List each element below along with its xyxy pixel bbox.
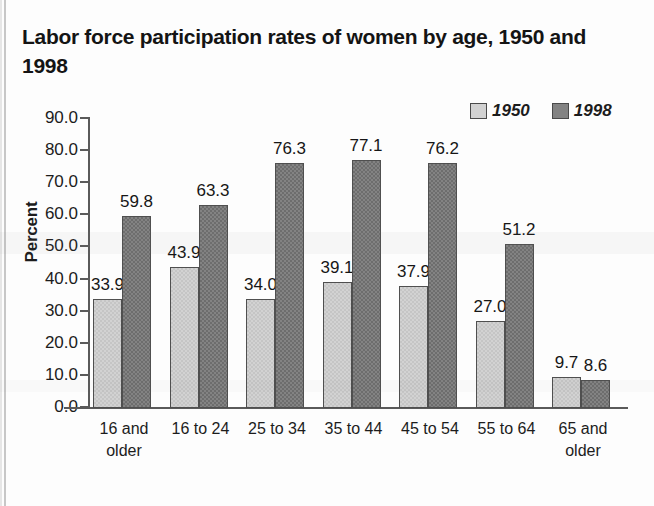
y-axis-tick-labels: 90.080.070.060.050.040.030.020.010.00.0: [16, 0, 78, 506]
bar-1998-5: [505, 244, 534, 408]
bar-value-label: 59.8: [114, 192, 160, 212]
plot-area: 33.959.843.963.334.076.339.177.137.976.2…: [88, 118, 628, 408]
x-category-label: 16 and older: [81, 418, 167, 462]
x-category-label: 45 to 54: [387, 418, 473, 440]
page-scan-edge-outer: [0, 0, 2, 506]
bar-1950-4: [399, 286, 428, 408]
y-tick-label: 50.0: [20, 236, 78, 256]
y-tick-label: 60.0: [20, 204, 78, 224]
x-category-label: 65 and older: [540, 418, 626, 462]
bar-value-label: 77.1: [343, 136, 389, 156]
bar-1950-0: [93, 299, 122, 408]
bar-value-label: 76.2: [420, 139, 466, 159]
bar-1998-0: [122, 216, 151, 408]
x-category-label: 25 to 34: [234, 418, 320, 440]
y-tick-label: 20.0: [20, 333, 78, 353]
x-category-label: 16 to 24: [158, 418, 244, 440]
x-category-label: 35 to 44: [311, 418, 397, 440]
page-scan-edge: [4, 0, 6, 506]
legend-swatch-1998: [552, 103, 569, 119]
page-title: Labor force participation rates of women…: [22, 22, 622, 80]
y-tick-label: 70.0: [20, 172, 78, 192]
bar-1950-1: [170, 267, 199, 408]
y-tick-label: 30.0: [20, 301, 78, 321]
bar-1950-2: [246, 299, 275, 408]
bar-value-label: 8.6: [573, 356, 619, 376]
bar-1950-5: [476, 321, 505, 408]
bar-value-label: 51.2: [496, 220, 542, 240]
bar-1950-3: [323, 282, 352, 408]
y-tick-label: 90.0: [20, 108, 78, 128]
y-tick-label: 40.0: [20, 269, 78, 289]
bar-1998-4: [428, 163, 457, 408]
y-tick-label: 10.0: [20, 365, 78, 385]
bar-value-label: 63.3: [190, 181, 236, 201]
bar-1998-2: [275, 163, 304, 408]
chart-page: Labor force participation rates of women…: [0, 0, 654, 506]
bar-value-label: 76.3: [267, 139, 313, 159]
bar-1998-6: [581, 380, 610, 408]
bar-1998-1: [199, 205, 228, 408]
y-tick-label: 80.0: [20, 140, 78, 160]
legend-swatch-1950: [470, 103, 487, 119]
bar-1950-6: [552, 377, 581, 408]
bar-1998-3: [352, 160, 381, 408]
x-category-label: 55 to 64: [464, 418, 550, 440]
